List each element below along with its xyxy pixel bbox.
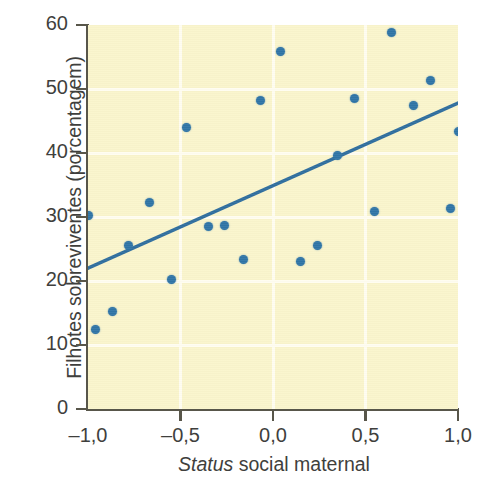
x-tick-mark xyxy=(179,410,182,421)
data-point xyxy=(350,94,359,103)
data-point xyxy=(333,151,342,160)
data-point xyxy=(220,221,229,230)
x-tick-mark xyxy=(272,410,275,421)
data-point xyxy=(454,127,459,136)
y-tick-mark xyxy=(76,216,87,219)
data-point xyxy=(387,28,396,37)
y-tick-mark xyxy=(76,344,87,347)
x-tick-mark xyxy=(364,410,367,421)
y-tick-label: 30 xyxy=(16,204,68,227)
y-tick-label: 60 xyxy=(16,12,68,35)
data-point xyxy=(91,325,100,334)
data-point xyxy=(276,47,285,56)
gridline-vertical xyxy=(272,25,275,409)
data-point xyxy=(204,222,213,231)
gridline-vertical xyxy=(179,25,182,409)
data-point xyxy=(296,257,305,266)
y-tick-label: 20 xyxy=(16,268,68,291)
x-tick-label: 1,0 xyxy=(423,424,488,447)
x-tick-mark xyxy=(457,410,460,421)
x-axis-title-plain-word: social maternal xyxy=(233,453,370,475)
data-point xyxy=(239,255,248,264)
gridline-vertical xyxy=(364,25,367,409)
data-point xyxy=(124,241,133,250)
scatter-plot-figure: Filhotes sobreviventes (porcentagem) Sta… xyxy=(0,0,488,495)
y-tick-label: 40 xyxy=(16,140,68,163)
data-point xyxy=(426,76,435,85)
data-point xyxy=(182,123,191,132)
plot-area xyxy=(88,25,458,409)
x-axis-title-italic-word: Status xyxy=(178,453,233,475)
data-point xyxy=(145,198,154,207)
data-point xyxy=(409,101,418,110)
y-tick-label: 0 xyxy=(16,396,68,419)
x-tick-label: 0,0 xyxy=(238,424,308,447)
x-tick-label: –0,5 xyxy=(146,424,216,447)
y-tick-mark xyxy=(76,280,87,283)
y-tick-mark xyxy=(76,24,87,27)
x-tick-label: –1,0 xyxy=(53,424,123,447)
x-tick-label: 0,5 xyxy=(331,424,401,447)
data-point xyxy=(167,275,176,284)
y-tick-mark xyxy=(76,88,87,91)
y-tick-label: 10 xyxy=(16,332,68,355)
y-tick-mark xyxy=(76,152,87,155)
x-axis-title: Status social maternal xyxy=(88,453,460,476)
data-point xyxy=(446,204,455,213)
data-point xyxy=(108,307,117,316)
data-point xyxy=(313,241,322,250)
data-point xyxy=(256,96,265,105)
y-tick-mark xyxy=(76,408,87,411)
data-point xyxy=(88,211,93,220)
y-tick-label: 50 xyxy=(16,76,68,99)
